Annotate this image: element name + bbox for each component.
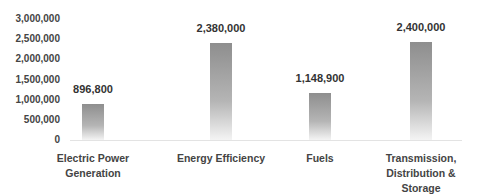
x-tick-label-line: Distribution & [366, 166, 476, 181]
x-tick-label-line: Fuels [265, 151, 375, 166]
y-tick-label: 0 [0, 134, 60, 146]
data-label: 896,800 [43, 83, 143, 95]
x-tick-label-line: Storage [366, 181, 476, 194]
x-tick-label: Electric Power Generation [38, 151, 148, 181]
bar-electric-power-generation [82, 104, 104, 140]
bar-fuels [309, 93, 331, 140]
x-tick-label-line: Transmission, [366, 151, 476, 166]
y-tick-label: 2,000,000 [0, 53, 60, 65]
y-tick-label: 1,000,000 [0, 94, 60, 106]
x-axis-line [70, 140, 462, 141]
bar-transmission-distribution-storage [410, 42, 432, 140]
data-label: 1,148,900 [270, 72, 370, 84]
x-tick-label: Energy Efficiency [166, 151, 276, 166]
bar-energy-efficiency [210, 43, 232, 140]
data-label: 2,400,000 [371, 21, 471, 33]
x-tick-label: Fuels [265, 151, 375, 166]
y-tick-label: 2,500,000 [0, 33, 60, 45]
x-tick-label-line: Energy Efficiency [166, 151, 276, 166]
x-tick-label: Transmission, Distribution & Storage [366, 151, 476, 194]
y-tick-label: 3,000,000 [0, 13, 60, 25]
x-tick-label-line: Electric Power [38, 151, 148, 166]
y-tick-label: 500,000 [0, 114, 60, 126]
x-tick-label-line: Generation [38, 166, 148, 181]
data-label: 2,380,000 [171, 22, 271, 34]
